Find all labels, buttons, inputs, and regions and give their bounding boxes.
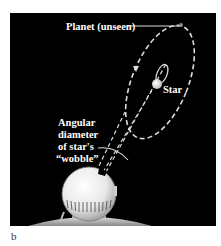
star-label: Star [163, 84, 182, 95]
angular-label-line1: Angular [58, 117, 95, 128]
observatory-dome [60, 167, 117, 222]
planet [179, 23, 183, 27]
wobble-diagram [10, 13, 216, 226]
orbit-direction-arrow-icon [133, 66, 139, 72]
angular-label-line4: “wobble” [56, 153, 99, 164]
star [152, 79, 162, 89]
angular-label-line2: diameter [58, 129, 98, 140]
angular-label-line3: of star's [58, 141, 94, 152]
planet-label: Planet (unseen) [66, 21, 135, 32]
diagram-panel: Planet (unseen) Star Angular diameter of… [10, 13, 216, 226]
panel-label: b [11, 230, 17, 242]
